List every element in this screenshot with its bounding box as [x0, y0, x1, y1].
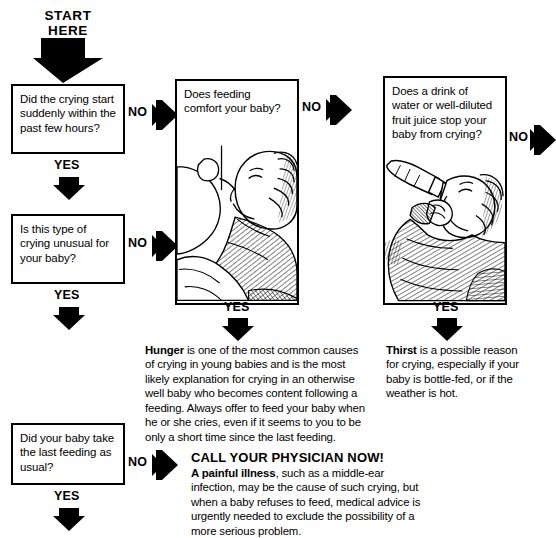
baby-breastfeeding-illustration — [177, 143, 297, 303]
down-arrow-icon — [431, 318, 463, 342]
down-arrow-icon — [53, 177, 85, 201]
middle-question-text: Does feeding comfort your baby? — [177, 81, 297, 118]
question-2-yes-label: YES — [54, 288, 80, 302]
right-question-text: Does a drink of water or well-diluted fr… — [385, 78, 505, 143]
question-3-no-label: NO — [128, 455, 147, 469]
start-here-line2: HERE — [48, 23, 88, 38]
right-arrow-icon — [530, 125, 556, 155]
down-arrow-icon — [222, 318, 254, 342]
hunger-answer-heading: Hunger — [145, 344, 184, 356]
call-physician-title: CALL YOUR PHYSICIAN NOW! — [191, 450, 429, 465]
question-1-yes-label: YES — [54, 158, 80, 172]
question-box-2-text: Is this type of crying unusual for your … — [13, 216, 123, 265]
right-yes-arrow — [431, 318, 463, 342]
question-box-3[interactable]: Did your baby take the last feeding as u… — [11, 423, 125, 485]
call-physician-paragraph: A painful illness, such as a middle-ear … — [191, 466, 429, 538]
middle-yes-label: YES — [224, 300, 250, 314]
call-physician-heading: A painful illness — [191, 467, 275, 479]
question-box-3-text: Did your baby take the last feeding as u… — [13, 425, 123, 474]
question-2-yes-arrow — [53, 307, 85, 331]
question-3-yes-label: YES — [54, 489, 80, 503]
down-arrow-icon — [53, 508, 85, 532]
right-no-label: NO — [509, 130, 528, 144]
question-box-1[interactable]: Did the crying start suddenly within the… — [11, 84, 125, 154]
down-arrow-icon — [53, 307, 85, 331]
question-2-no-label: NO — [128, 236, 147, 250]
start-down-arrow — [33, 38, 105, 84]
right-no-arrow — [530, 125, 556, 155]
question-3-no-arrow — [152, 450, 178, 480]
question-box-2[interactable]: Is this type of crying unusual for your … — [11, 214, 125, 284]
baby-drinking-bottle-illustration — [385, 157, 505, 303]
thirst-answer-paragraph: Thirst is a possible reason for crying, … — [386, 343, 532, 401]
question-1-no-label: NO — [128, 105, 147, 119]
thirst-answer-heading: Thirst — [386, 344, 417, 356]
right-arrow-icon — [152, 450, 178, 480]
hunger-answer-paragraph: Hunger is one of the most common causes … — [145, 343, 369, 444]
down-arrow-icon — [33, 38, 105, 84]
middle-no-label: NO — [302, 100, 321, 114]
question-3-yes-arrow — [53, 508, 85, 532]
right-picture-box[interactable]: Does a drink of water or well-diluted fr… — [383, 76, 507, 305]
right-yes-label: YES — [433, 300, 459, 314]
middle-yes-arrow — [222, 318, 254, 342]
middle-no-arrow — [326, 95, 352, 125]
question-box-1-text: Did the crying start suddenly within the… — [13, 86, 123, 135]
start-here-line1: START — [45, 8, 92, 23]
right-arrow-icon — [326, 95, 352, 125]
start-here-label: START HERE — [22, 8, 114, 38]
hunger-answer-body: is one of the most common causes of cryi… — [145, 344, 365, 443]
middle-picture-box[interactable]: Does feeding comfort your baby? — [175, 79, 299, 305]
question-1-yes-arrow — [53, 177, 85, 201]
call-physician-section: CALL YOUR PHYSICIAN NOW! A painful illne… — [191, 450, 429, 538]
